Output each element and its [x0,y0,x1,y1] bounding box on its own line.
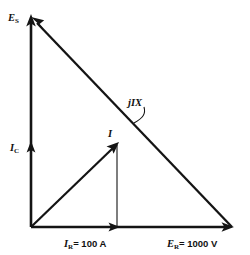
i-vector-line [31,148,113,227]
label-jix: jIX [126,97,143,108]
jix-leader-line [134,107,145,123]
jix-vector-line [37,23,232,227]
label-er: ER= 1000 V [166,238,218,251]
phasor-diagram: ES IC I jIX IR= 100 A ER= 1000 V [0,0,250,255]
label-ic: IC [9,142,19,155]
label-i: I [107,128,113,139]
label-ir: IR= 100 A [63,238,106,251]
phasor-diagram-canvas: ES IC I jIX IR= 100 A ER= 1000 V [0,0,250,255]
label-es: ES [7,12,19,25]
